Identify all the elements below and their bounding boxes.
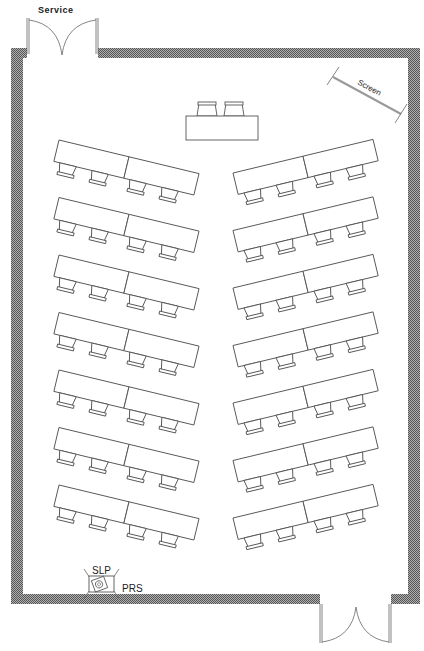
table-row-right xyxy=(233,254,381,321)
table xyxy=(303,139,381,189)
table-row-left xyxy=(51,255,199,322)
head-table xyxy=(186,102,258,140)
table xyxy=(233,444,311,494)
table xyxy=(233,271,311,321)
table-row-left xyxy=(51,485,199,552)
table xyxy=(303,197,381,247)
table xyxy=(233,501,311,551)
floor-plan: Service Screen xyxy=(0,0,424,651)
table xyxy=(51,255,129,305)
table xyxy=(303,369,381,419)
table xyxy=(121,502,199,552)
table xyxy=(121,272,199,322)
wall-bottom-right xyxy=(391,594,420,604)
sound-equipment: SLP PRS xyxy=(84,565,143,598)
head-chair xyxy=(224,102,244,116)
table-row-right xyxy=(233,427,381,494)
table xyxy=(51,370,129,420)
table xyxy=(303,484,381,534)
table-top xyxy=(303,427,378,465)
wall-right xyxy=(408,48,420,604)
table-top xyxy=(303,197,378,235)
table-top xyxy=(233,444,308,482)
table xyxy=(121,387,199,437)
table xyxy=(303,427,381,477)
table-top xyxy=(303,312,378,350)
table-top xyxy=(233,156,308,194)
table xyxy=(121,157,199,207)
table-top xyxy=(233,501,308,539)
table xyxy=(51,485,129,535)
table xyxy=(51,198,129,248)
table-row-right xyxy=(233,312,381,379)
screen-label: Screen xyxy=(356,78,383,98)
head-table-top xyxy=(186,116,258,140)
table xyxy=(303,254,381,304)
table-row-left xyxy=(51,313,199,380)
table-top xyxy=(233,329,308,367)
table xyxy=(233,329,311,379)
table-row-right xyxy=(233,369,381,436)
prs-label: PRS xyxy=(122,583,143,594)
table-top xyxy=(233,214,308,252)
table-top xyxy=(233,271,308,309)
table xyxy=(233,386,311,436)
table xyxy=(121,214,199,264)
table-top xyxy=(303,254,378,292)
table-rows xyxy=(51,139,381,551)
service-door-label: Service xyxy=(38,5,74,15)
table xyxy=(51,140,129,190)
table-top xyxy=(233,386,308,424)
table-row-right xyxy=(233,197,381,264)
wall-top-right xyxy=(98,48,416,58)
table-row-left xyxy=(51,140,199,207)
projection-screen: Screen xyxy=(327,67,407,123)
table xyxy=(51,428,129,478)
table-top xyxy=(303,369,378,407)
table-top xyxy=(303,139,378,177)
table xyxy=(121,444,199,494)
slp-label: SLP xyxy=(92,565,111,576)
table xyxy=(233,214,311,264)
table-row-left xyxy=(51,370,199,437)
table xyxy=(121,329,199,379)
service-door[interactable] xyxy=(27,18,98,55)
table-row-right xyxy=(233,139,381,206)
wall-bottom-left xyxy=(11,594,320,604)
table xyxy=(303,312,381,362)
table-top xyxy=(303,484,378,522)
table xyxy=(233,156,311,206)
table xyxy=(51,313,129,363)
table-row-left xyxy=(51,428,199,495)
table-row-left xyxy=(51,198,199,265)
table-row-right xyxy=(233,484,381,551)
head-chair xyxy=(197,102,217,116)
wall-left xyxy=(11,48,23,604)
entrance-door[interactable] xyxy=(320,604,391,643)
